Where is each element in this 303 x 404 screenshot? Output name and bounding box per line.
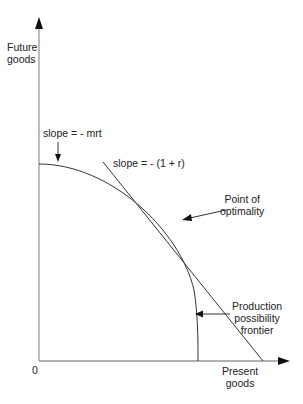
y-axis-arrow-icon [35, 17, 43, 29]
optimality-label: Point of optimality [220, 193, 264, 217]
arrow-down-icon [55, 154, 61, 162]
frontier-label-line: Production [232, 300, 282, 312]
y-axis [35, 17, 43, 361]
ppf-curve [39, 164, 198, 361]
frontier-label-line: frontier [232, 324, 282, 336]
x-axis [39, 357, 290, 365]
mrt-slope-label: slope = - mrt [43, 127, 102, 139]
frontier-label: Production possibility frontier [232, 300, 282, 336]
mrt-arrow [55, 142, 61, 162]
tangent-slope-label: slope = - (1 + r) [113, 157, 185, 169]
x-axis-label-line: Present [222, 365, 258, 377]
arrow-left-icon [182, 214, 192, 221]
x-axis-label: Present goods [222, 365, 258, 389]
optimality-label-line: optimality [220, 205, 264, 217]
y-axis-label-line: goods [7, 53, 37, 65]
frontier-arrow [195, 311, 230, 318]
y-axis-label: Future goods [7, 41, 37, 65]
y-axis-label-line: Future [7, 41, 37, 53]
origin-label: 0 [32, 364, 38, 376]
x-axis-arrow-icon [278, 357, 290, 365]
x-axis-label-line: goods [222, 377, 258, 389]
optimality-label-line: Point of [220, 193, 264, 205]
frontier-label-line: possibility [232, 312, 282, 324]
